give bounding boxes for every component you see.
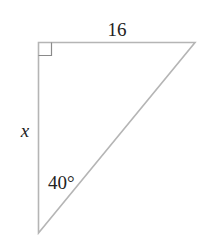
left-side-label: x [20, 120, 30, 141]
triangle [39, 43, 196, 234]
right-angle-marker [39, 43, 52, 56]
triangle-diagram: 16 x 40° [0, 0, 201, 247]
top-side-label: 16 [108, 19, 127, 40]
angle-label: 40° [48, 172, 75, 193]
